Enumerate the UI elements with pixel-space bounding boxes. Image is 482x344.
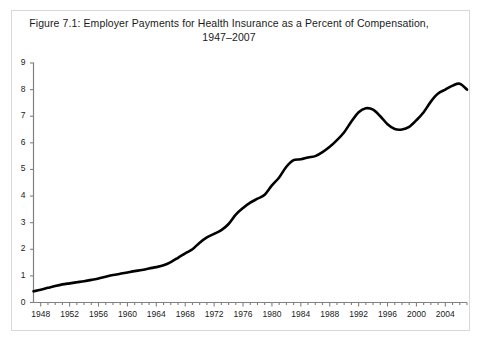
x-axis-tick-label: 2004 xyxy=(425,309,465,319)
x-axis-tick-labels: 1948195219561960196419681972197619801984… xyxy=(0,0,482,344)
